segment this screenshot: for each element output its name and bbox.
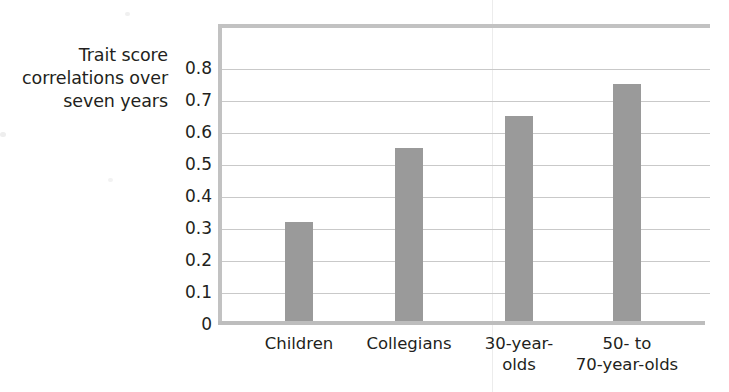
scan-artifact-speck [125, 12, 130, 16]
y-axis-title-line: seven years [0, 90, 168, 113]
y-axis-tick-label: 0.4 [148, 188, 212, 205]
y-axis-tick-labels: 0.80.70.60.50.40.30.20.10 [148, 0, 212, 392]
y-axis-tick-label: 0.2 [148, 252, 212, 269]
scan-artifact-speck [108, 178, 113, 182]
y-axis-title-line: correlations over [0, 67, 168, 90]
x-axis-category-label-line: Children [239, 333, 359, 354]
x-axis-category-label-line: Collegians [349, 333, 469, 354]
y-axis-tick-label: 0.7 [148, 92, 212, 109]
x-axis-category-labels: ChildrenCollegians30-year-olds50- to70-y… [218, 333, 710, 392]
plot-area [218, 24, 710, 325]
y-axis-tick-label: 0 [148, 316, 212, 333]
scan-artifact-speck [0, 132, 6, 137]
y-axis-tick-label: 0.3 [148, 220, 212, 237]
x-axis-category-label-line: 70-year-olds [567, 354, 687, 375]
x-axis-category-label-line: olds [459, 354, 579, 375]
bar [395, 148, 423, 321]
y-axis-tick-label: 0.1 [148, 284, 212, 301]
y-axis-title: Trait score correlations over seven year… [0, 44, 168, 113]
bar [505, 116, 533, 321]
plot-frame-baseline [218, 321, 705, 325]
bar [285, 222, 313, 321]
x-axis-category-label-line: 50- to [567, 333, 687, 354]
y-axis-tick-label: 0.5 [148, 156, 212, 173]
x-axis-category-label: Children [239, 333, 359, 354]
y-axis-tick-label: 0.8 [148, 60, 212, 77]
x-axis-category-label-line: 30-year- [459, 333, 579, 354]
bar [613, 84, 641, 321]
x-axis-category-label: Collegians [349, 333, 469, 354]
x-axis-category-label: 30-year-olds [459, 333, 579, 375]
bar-series [218, 24, 710, 325]
x-axis-category-label: 50- to70-year-olds [567, 333, 687, 375]
y-axis-tick-label: 0.6 [148, 124, 212, 141]
y-axis-title-line: Trait score [0, 44, 168, 67]
